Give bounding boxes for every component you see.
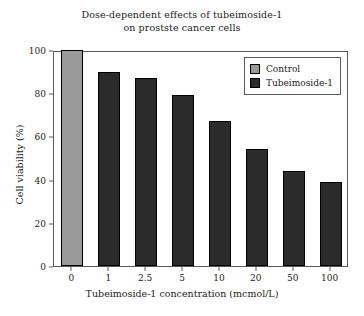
x-axis: 012.55102050100 [53,267,348,285]
chart-bar [283,171,305,266]
chart-bar [61,50,83,266]
x-tick-label: 20 [250,273,261,283]
x-tick-label: 50 [287,273,298,283]
x-axis-label: Tubeimoside-1 concentration (mcmol/L) [0,288,364,299]
x-tick-label: 5 [179,273,185,283]
chart-title: Dose-dependent effects of tubeimoside-1 … [0,8,364,34]
x-tick-mark [71,267,72,271]
chart-bar [98,72,120,266]
bar-slot [54,52,91,266]
legend-item: Tubeimoside-1 [250,76,333,90]
legend-swatch-icon [250,64,260,74]
bar-slot [165,52,202,266]
x-tick-mark [182,267,183,271]
legend-item: Control [250,62,333,76]
chart-title-line-1: Dose-dependent effects of tubeimoside-1 [0,8,364,21]
x-tick-mark [108,267,109,271]
x-tick-mark [292,267,293,271]
x-tick-mark [218,267,219,271]
x-tick-mark [329,267,330,271]
legend-swatch-icon [250,78,260,88]
plot-area: ControlTubeimoside-1 [53,51,348,267]
legend-item-label: Tubeimoside-1 [266,78,333,88]
x-tick-label: 2.5 [138,273,152,283]
chart-figure: Dose-dependent effects of tubeimoside-1 … [0,0,364,316]
x-tick-label: 1 [105,273,111,283]
x-tick-mark [255,267,256,271]
chart-bar [246,149,268,266]
legend-item-label: Control [266,64,300,74]
chart-bar [172,95,194,266]
x-tick-mark [145,267,146,271]
y-tick-label: 80 [35,89,46,99]
chart-legend: ControlTubeimoside-1 [244,57,341,95]
x-tick-label: 10 [213,273,224,283]
bar-slot [202,52,239,266]
y-tick-label: 100 [29,46,46,56]
chart-bar [135,78,157,266]
y-axis: 020406080100 [0,51,53,267]
y-tick-label: 20 [35,219,46,229]
y-tick-label: 60 [35,132,46,142]
x-tick-label: 0 [69,273,75,283]
x-tick-label: 100 [321,273,338,283]
y-tick-label: 0 [40,262,46,272]
chart-title-line-2: on prostste cancer cells [0,21,364,34]
bar-slot [128,52,165,266]
chart-bar [209,121,231,266]
chart-bar [320,182,342,266]
y-axis-label: Cell viability (%) [14,90,25,240]
y-tick-label: 40 [35,176,46,186]
bar-slot [91,52,128,266]
